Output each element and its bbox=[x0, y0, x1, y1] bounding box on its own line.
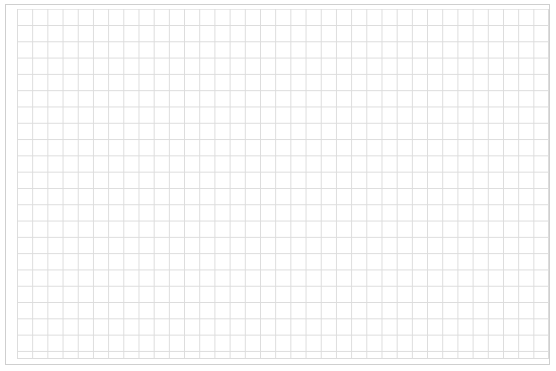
grid-frame bbox=[5, 4, 550, 365]
grid-paper bbox=[17, 9, 549, 359]
